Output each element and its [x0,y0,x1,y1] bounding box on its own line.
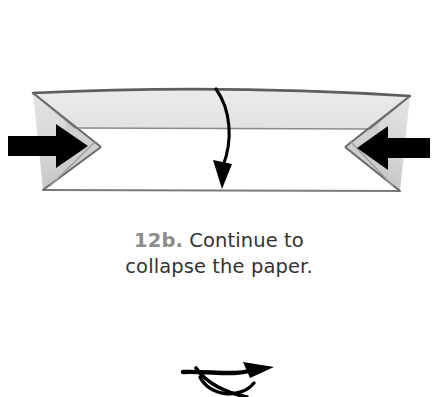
turn-over-arc-upper [183,370,252,373]
diagram-page: 12b. Continue to collapse the paper. [0,0,438,397]
paper-fold-line-horizontal [75,128,370,129]
turn-over-symbol [183,362,274,397]
origami-diagram [0,0,438,397]
paper-edge-bottom [43,190,400,191]
turn-over-arrow-head [243,362,274,378]
